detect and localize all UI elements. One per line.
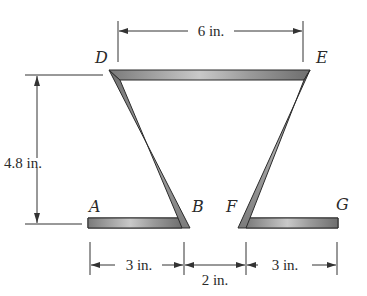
right-leg <box>238 70 338 228</box>
dim-label-gap: 2 in. <box>202 272 229 288</box>
cross-section-shape <box>88 70 338 228</box>
point-label-D: D <box>94 48 108 67</box>
flange-AB <box>88 218 182 228</box>
thin-wall-section-diagram: 6 in. 4.8 in. 3 in. 2 in. 3 in. D E A B <box>0 0 367 296</box>
dim-label-top-width: 6 in. <box>198 23 225 39</box>
dim-label-height: 4.8 in. <box>4 155 42 171</box>
point-label-A: A <box>87 197 101 216</box>
point-label-G: G <box>336 195 349 214</box>
point-label-B: B <box>191 197 204 216</box>
top-flange-DE <box>109 70 310 80</box>
flange-FG <box>246 218 338 228</box>
dim-label-right-base: 3 in. <box>272 257 299 273</box>
point-label-E: E <box>315 48 328 67</box>
point-label-F: F <box>225 197 238 216</box>
left-leg <box>88 70 190 228</box>
dim-label-left-base: 3 in. <box>126 257 153 273</box>
